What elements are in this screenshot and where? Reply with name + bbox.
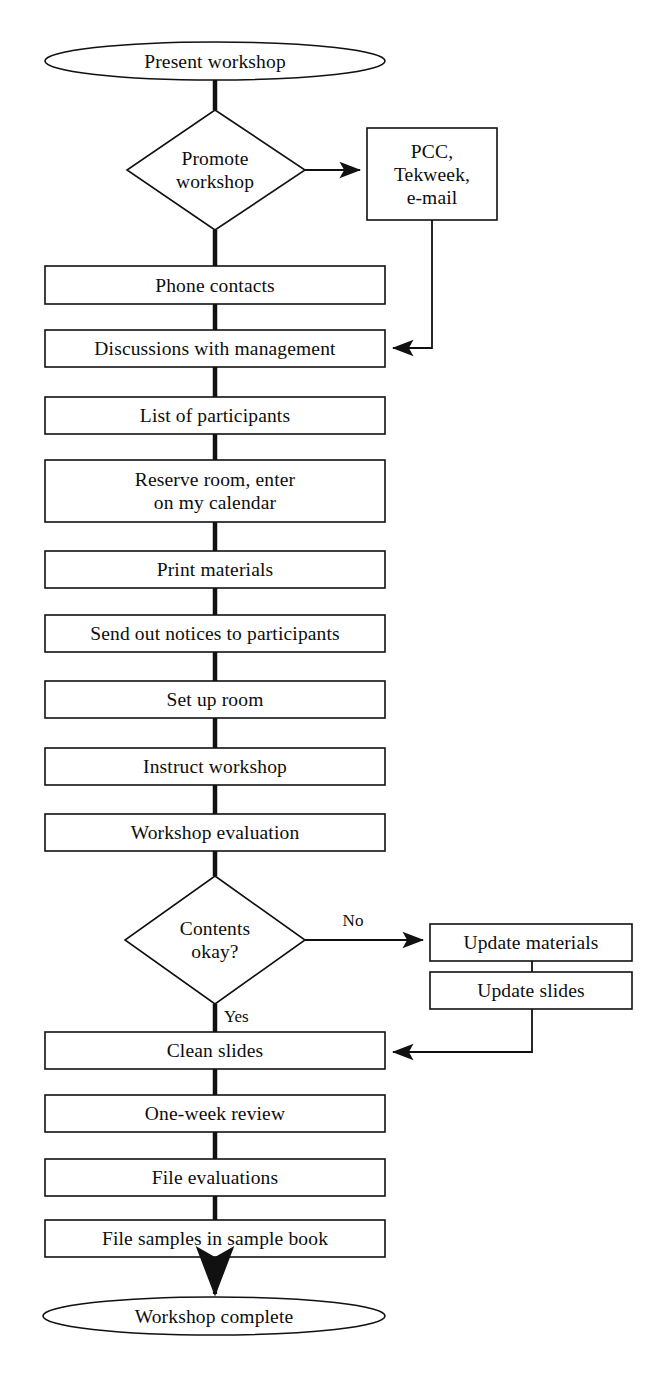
node-shape-filesamples xyxy=(45,1220,385,1257)
node-shape-setup xyxy=(45,681,385,718)
node-shape-updateslides xyxy=(430,972,632,1009)
node-shape-end xyxy=(43,1297,385,1335)
node-shape-discussions xyxy=(45,330,385,367)
flowchart-graphics xyxy=(0,0,666,1383)
node-shape-promote xyxy=(127,110,305,230)
node-shape-fileeval xyxy=(45,1159,385,1196)
node-shape-instruct xyxy=(45,748,385,785)
node-shape-review xyxy=(45,1095,385,1132)
node-shape-phone xyxy=(45,266,385,304)
node-shape-reserve xyxy=(45,460,385,522)
node-shape-notices xyxy=(45,615,385,652)
node-shape-contents xyxy=(125,876,305,1004)
node-shape-print xyxy=(45,551,385,588)
node-shape-updatemat xyxy=(430,924,632,961)
node-shape-start xyxy=(45,42,385,80)
node-shape-participants xyxy=(45,397,385,434)
node-shape-evaluation xyxy=(45,814,385,851)
flowchart-canvas: Present workshop Promote workshop PCC, T… xyxy=(0,0,666,1383)
node-shape-clean xyxy=(45,1032,385,1069)
connector-channels-discussions xyxy=(393,220,432,348)
node-shape-channels xyxy=(367,128,497,220)
connector-updateslides-clean xyxy=(393,1009,532,1052)
